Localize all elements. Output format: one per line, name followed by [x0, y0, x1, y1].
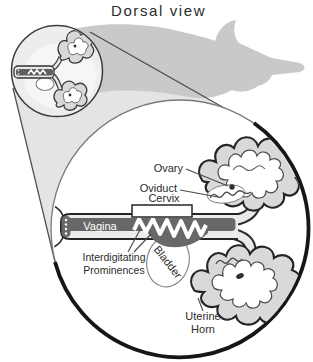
inset-bladder	[36, 78, 54, 91]
vagina-label: Vagina	[83, 220, 117, 232]
cervix-label: Cervix	[148, 192, 180, 204]
ovary-dot	[229, 184, 234, 189]
interdigitating-label-line2: Prominences	[83, 264, 144, 276]
cervix-bracket	[132, 205, 192, 217]
uterine-horn-label-line1: Uterine	[185, 310, 220, 322]
uterine-horn-label-line2: Horn	[191, 323, 215, 335]
ovary-label: Ovary	[154, 162, 184, 174]
figure-dorsal-view: Ovary Oviduct Cervix Vagina Bladder Inte…	[0, 0, 313, 362]
diagram-canvas: Ovary Oviduct Cervix Vagina Bladder Inte…	[0, 0, 313, 362]
inset-vagina-tube	[14, 66, 54, 78]
page-title: Dorsal view	[111, 2, 206, 19]
interdigitating-label-line1: Interdigitating	[82, 251, 145, 263]
